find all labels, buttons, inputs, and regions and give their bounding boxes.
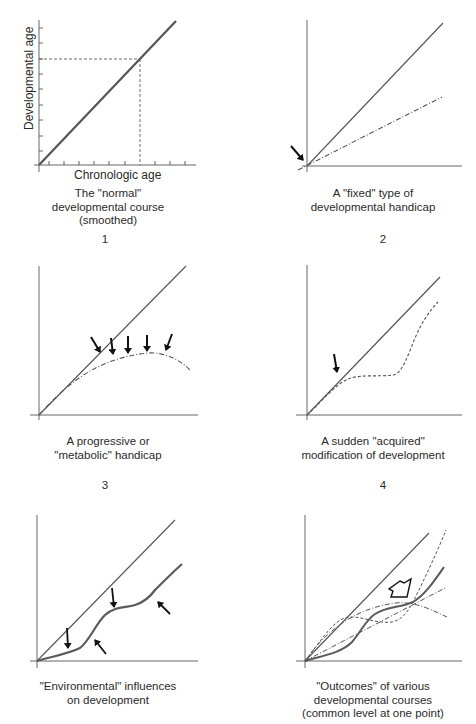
- fixed-handicap-line: [298, 97, 442, 170]
- caption-line: developmental course: [20, 201, 196, 215]
- caption-line: "Outcomes" of various: [285, 680, 461, 694]
- fixed-handicap-line: [305, 587, 447, 661]
- caption-line: developmental handicap: [285, 201, 461, 215]
- caption-line: "Environmental" influences: [20, 680, 196, 694]
- figure-canvas: [0, 0, 476, 724]
- arrow-icons: [91, 334, 172, 354]
- normal-course-line: [39, 21, 176, 165]
- panel-6-outcomes: [296, 515, 462, 668]
- panel-number-3: 3: [95, 479, 115, 491]
- caption-line: "metabolic" handicap: [20, 449, 196, 463]
- panel-4-acquired-modification: [296, 265, 462, 420]
- caption-line: (smoothed): [20, 214, 196, 228]
- arrow-icon: [334, 354, 337, 372]
- arrow-icon: [291, 146, 303, 160]
- caption-panel-4: A sudden "acquired" modification of deve…: [285, 435, 461, 462]
- caption-panel-6: "Outcomes" of various developmental cour…: [285, 680, 461, 721]
- panel-2-fixed-handicap: [291, 20, 462, 172]
- caption-line: The "normal": [20, 187, 196, 201]
- hollow-arrow-icon: [389, 579, 411, 597]
- caption-panel-3: A progressive or "metabolic" handicap: [20, 435, 196, 462]
- caption-line: A "fixed" type of: [285, 187, 461, 201]
- arrow-icons: [67, 588, 170, 654]
- panel-1-normal-course: [34, 20, 196, 172]
- progressive-handicap-curve: [39, 353, 190, 415]
- caption-line: on development: [20, 694, 196, 708]
- caption-line: A sudden "acquired": [285, 435, 461, 449]
- environmental-course-curve: [37, 564, 182, 661]
- caption-line: (common level at one point): [285, 707, 461, 721]
- normal-course-line: [307, 277, 440, 415]
- caption-panel-1: The "normal" developmental course (smoot…: [20, 187, 196, 228]
- normal-course-line: [305, 533, 429, 661]
- caption-line: A progressive or: [20, 435, 196, 449]
- x-axis-ticks: [49, 161, 185, 165]
- y-axis-label: Developmental age: [22, 27, 36, 130]
- caption-panel-5: "Environmental" influences on developmen…: [20, 680, 196, 707]
- acquired-modification-curve: [305, 530, 446, 661]
- normal-course-line: [307, 23, 443, 166]
- caption-line: modification of development: [285, 449, 461, 463]
- panel-5-environmental-influences: [30, 515, 198, 668]
- panel-number-4: 4: [373, 479, 393, 491]
- panel-3-progressive-handicap: [30, 266, 198, 420]
- x-axis-label: Chronologic age: [74, 168, 161, 182]
- y-axis-ticks: [39, 28, 43, 151]
- progressive-handicap-curve: [305, 603, 447, 661]
- caption-panel-2: A "fixed" type of developmental handicap: [285, 187, 461, 214]
- caption-line: developmental courses: [285, 694, 461, 708]
- panel-number-2: 2: [373, 233, 393, 245]
- acquired-modification-curve: [307, 302, 438, 415]
- panel-number-1: 1: [95, 233, 115, 245]
